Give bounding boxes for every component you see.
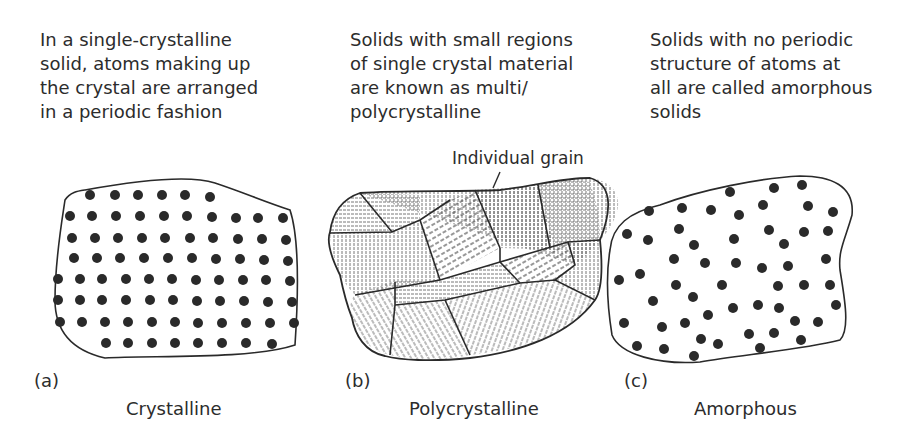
- amorphous-diagram: [607, 176, 852, 363]
- amorphous-caption: Amorphous: [694, 398, 797, 419]
- grain-leader-line: [493, 172, 500, 188]
- panel-a-tag: (a): [34, 370, 59, 391]
- crystalline-caption: Crystalline: [126, 398, 222, 419]
- panel-c-tag: (c): [624, 370, 648, 391]
- polycrystalline-caption: Polycrystalline: [409, 398, 539, 419]
- crystalline-diagram: [53, 179, 299, 358]
- diagram-canvas: [0, 0, 919, 439]
- panel-b-tag: (b): [345, 370, 370, 391]
- polycrystalline-diagram: [329, 172, 618, 360]
